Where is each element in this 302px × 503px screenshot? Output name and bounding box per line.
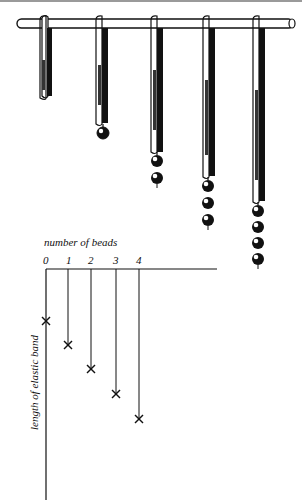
- graph-axes: [46, 269, 217, 500]
- elastic-band-2-beads: [151, 16, 163, 188]
- data-points: [42, 269, 143, 423]
- elastic-band-illustration: [0, 0, 302, 503]
- x-tick-4: 4: [136, 254, 142, 266]
- elastic-band-4-beads: [252, 16, 265, 269]
- x-tick-1: 1: [66, 254, 72, 266]
- y-axis-title: length of elastic band: [28, 335, 40, 430]
- x-tick-0: 0: [43, 254, 49, 266]
- elastic-band-0-beads: [40, 16, 52, 100]
- x-tick-3: 3: [113, 254, 119, 266]
- x-axis-title: number of beads: [44, 236, 117, 248]
- x-tick-2: 2: [88, 254, 94, 266]
- elastic-band-1-bead: [96, 16, 109, 139]
- elastic-band-3-beads: [202, 16, 215, 230]
